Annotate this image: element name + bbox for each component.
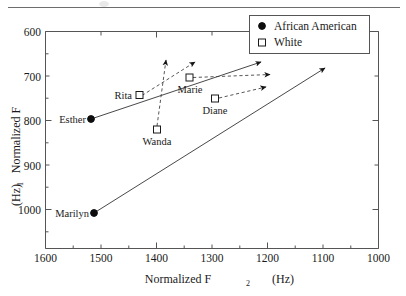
y-axis-title: Normalized F 1 (Hz) xyxy=(9,107,25,206)
x-tick-label-text: 1000 xyxy=(367,252,390,264)
data-point-diane xyxy=(212,95,219,102)
y-tick-label-700: 700 xyxy=(24,71,42,83)
x-tick-label-1300: 1300 xyxy=(201,252,224,264)
data-point-wanda xyxy=(154,126,161,133)
x-axis-title-main: Normalized F xyxy=(145,272,212,286)
x-axis-title-unit: (Hz) xyxy=(272,272,294,286)
y-tick-label-600: 600 xyxy=(24,26,42,38)
y-axis-ticks xyxy=(46,32,379,232)
x-tick-label-text: 1500 xyxy=(90,252,113,264)
data-point-rita xyxy=(136,92,143,99)
y-axis-title-main: Normalized F xyxy=(9,107,23,174)
x-tick-label-1500: 1500 xyxy=(90,252,113,264)
x-tick-label-text: 1100 xyxy=(312,252,335,264)
x-tick-label-text: 1200 xyxy=(256,252,279,264)
legend-marker-open-square xyxy=(259,39,266,46)
x-tick-label-text: 1300 xyxy=(201,252,224,264)
trajectory-wanda xyxy=(154,60,167,133)
point-label-rita: Rita xyxy=(115,90,133,101)
x-tick-label-1400: 1400 xyxy=(145,252,168,264)
legend-label-african-american: African American xyxy=(274,20,357,32)
x-tick-label-1600: 1600 xyxy=(34,252,57,264)
legend-marker-filled-circle xyxy=(259,23,266,30)
y-tick-label-800: 800 xyxy=(24,115,42,127)
vowel-formant-scatter-plot: 600 700 800 900 1000 xyxy=(0,0,406,296)
trajectory-diane xyxy=(212,87,267,102)
data-point-marie xyxy=(186,74,193,81)
y-tick-label-900: 900 xyxy=(24,160,42,172)
chart-legend: African American White xyxy=(250,16,370,54)
x-axis-title-subscript: 2 xyxy=(246,279,250,288)
y-tick-label-text: 600 xyxy=(24,26,42,38)
x-tick-label-1200: 1200 xyxy=(256,252,279,264)
x-tick-label-1100: 1100 xyxy=(312,252,335,264)
point-label-esther: Esther xyxy=(59,114,86,125)
figure-container: 600 700 800 900 1000 xyxy=(0,0,406,296)
y-tick-label-text: 800 xyxy=(24,115,42,127)
y-axis-title-unit: (Hz) xyxy=(9,184,23,206)
data-point-esther xyxy=(88,116,95,123)
point-label-wanda: Wanda xyxy=(143,136,172,147)
x-tick-label-text: 1400 xyxy=(145,252,168,264)
y-tick-label-text: 700 xyxy=(24,71,42,83)
point-label-marie: Marie xyxy=(177,84,202,95)
legend-label-white: White xyxy=(274,36,302,48)
point-label-marilyn: Marilyn xyxy=(55,208,90,219)
data-point-marilyn xyxy=(91,210,98,217)
trajectory-marie xyxy=(186,74,270,81)
x-tick-label-1000: 1000 xyxy=(367,252,390,264)
point-label-diane: Diane xyxy=(202,105,227,116)
y-tick-label-text: 900 xyxy=(24,160,42,172)
x-tick-label-text: 1600 xyxy=(34,252,57,264)
x-axis-title: Normalized F 2 (Hz) xyxy=(145,272,294,288)
